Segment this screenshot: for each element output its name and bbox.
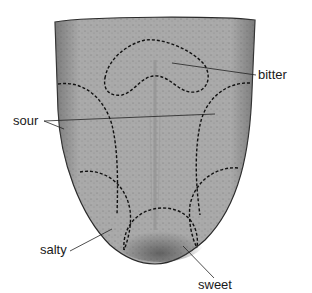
salty-label: salty [40,243,67,256]
tongue-shape [55,17,255,264]
bitter-label: bitter [258,68,287,81]
sweet-label: sweet [198,278,232,291]
sour-label: sour [13,114,38,127]
tongue-taste-diagram: bitter sour salty sweet [0,0,312,293]
